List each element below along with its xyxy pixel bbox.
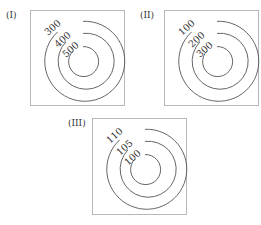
contour-map-ii: 100 200 300	[165, 11, 260, 107]
contour-map-iii: 110 105 100	[93, 119, 188, 216]
contour-panel-ii: 100 200 300	[164, 10, 259, 106]
contour-panel-iii: 110 105 100	[92, 118, 187, 215]
panel-label-i: (I)	[6, 10, 17, 20]
panel-label-ii: (II)	[140, 10, 154, 20]
panel-label-iii: (III)	[68, 118, 86, 128]
contour-map-i: 300 400 500	[31, 11, 126, 107]
contour-panel-i: 300 400 500	[30, 10, 125, 106]
